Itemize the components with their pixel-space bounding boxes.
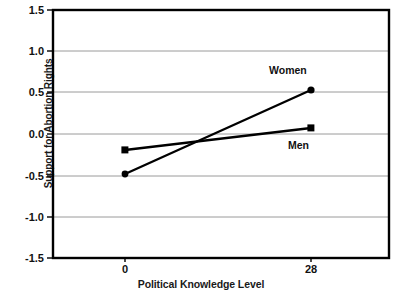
series-label-women: Women	[269, 64, 307, 76]
data-point-men-0	[121, 146, 128, 153]
series-men	[121, 124, 314, 153]
plot-area	[0, 0, 402, 300]
data-point-women-0	[122, 171, 129, 178]
y-axis-tick-marks	[47, 10, 52, 258]
chart-figure: Support for Abortion Rights 1.5 1.0 0.5 …	[0, 0, 402, 300]
series-label-men: Men	[288, 139, 309, 151]
data-point-men-1	[307, 124, 314, 131]
data-point-women-1	[307, 86, 314, 93]
gridlines	[53, 51, 389, 217]
